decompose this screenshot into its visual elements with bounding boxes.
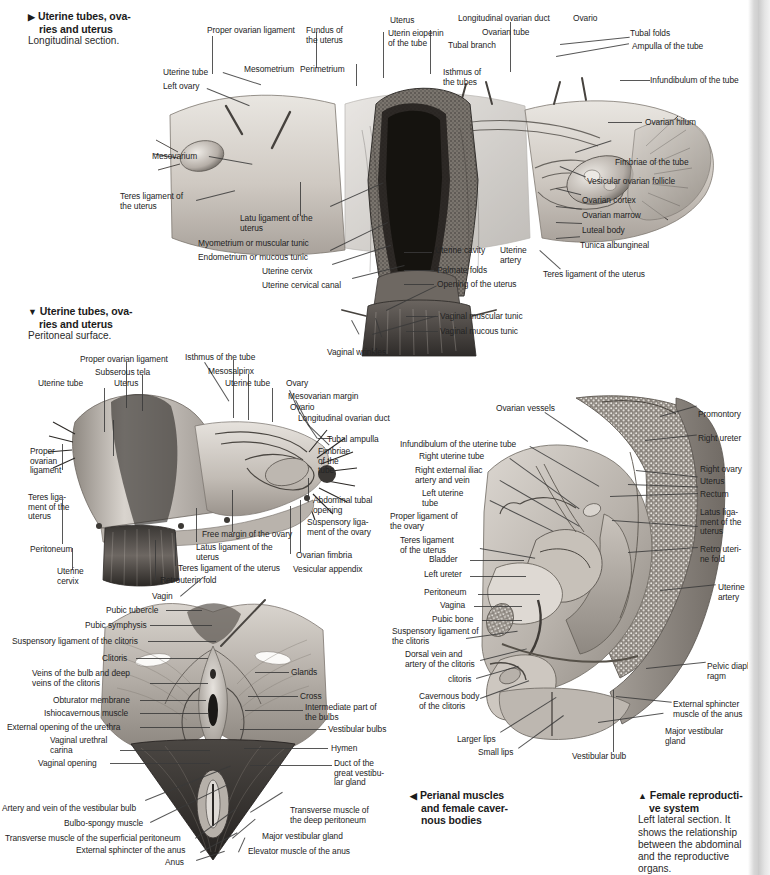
anatomy-label: Artery and vein of the vestibular bulb (2, 804, 136, 814)
anatomy-label: External sphincter muscle of the anus (673, 700, 742, 719)
anatomy-label: Subserous tela (95, 368, 150, 378)
anatomy-label: Uterine cervix (262, 267, 313, 277)
anatomy-label: External opening of the urethra (7, 723, 120, 733)
anatomy-label: Bulbo-spongy muscle (64, 819, 143, 829)
anatomy-label: Abdominal tubal opening (313, 496, 372, 515)
page-edge-shadow (748, 0, 758, 875)
anatomy-label: Pubic symphysis (85, 621, 147, 631)
anatomy-label: Uterine cervix (57, 567, 84, 586)
leader-line (175, 532, 176, 566)
figure-1-caption: ▶Uterine tubes, ova- ries and uterus Lon… (28, 10, 178, 48)
anatomy-label: Mesosalpinx (208, 367, 254, 377)
anatomy-label: Hymen (331, 744, 357, 754)
anatomy-label: Vagin (152, 592, 173, 602)
anatomy-label: Uterin eiopenin of the tube (388, 29, 444, 48)
anatomy-label: Tubal folds (630, 29, 670, 39)
leader-line (608, 122, 642, 123)
anatomy-label: clitoris (448, 675, 471, 685)
anatomy-label: Tubal branch (448, 41, 496, 51)
anatomy-label: Vaginal muscular tunic (440, 312, 523, 322)
anatomy-label: Vaginal mucous tunic (440, 327, 518, 337)
anatomy-label: Vesicular appendix (293, 565, 362, 575)
anatomy-label: Ovarian vessels (496, 404, 555, 414)
leader-line (155, 540, 156, 580)
leader-line (255, 672, 289, 673)
anatomy-label: Uterus (390, 16, 414, 26)
figure-4-caption-title: ▲Female reproducti- ve system (638, 789, 760, 814)
anatomy-label: Pubic bone (432, 615, 473, 625)
leader-line (404, 270, 434, 271)
anatomy-label: Right uterine tube (419, 452, 484, 462)
anatomy-label: Rectum (700, 490, 729, 500)
leader-line (478, 594, 540, 595)
anatomy-label: Uterine tube (163, 68, 208, 78)
anatomy-label: Palmate folds (437, 266, 487, 276)
leader-line (244, 748, 328, 749)
anatomy-label: External sphincter of the anus (76, 846, 185, 856)
anatomy-label: Longitudinal ovarian duct (298, 414, 390, 424)
leader-line (248, 696, 298, 697)
leader-line (150, 683, 208, 684)
anatomy-label: Uterine artery (500, 246, 527, 265)
anatomy-label: Intermediate part of the bulbs (305, 703, 377, 722)
leader-line (383, 32, 384, 78)
anatomy-label: Infundibulum of the uterine tube (400, 440, 516, 450)
anatomy-label: Right external iliac artery and vein (415, 466, 482, 485)
anatomy-label: Suspensory ligament of the clitoris (392, 627, 478, 646)
anatomy-label: Major vestibular gland (262, 832, 343, 842)
anatomy-label: Anus (165, 858, 184, 868)
anatomy-label: Longitudinal ovarian duct (458, 14, 550, 24)
leader-line (212, 36, 213, 74)
anatomy-label: Peritoneum (424, 588, 466, 598)
anatomy-label: Latus liga- ment of the uterus (700, 508, 741, 537)
leader-line (613, 690, 614, 752)
anatomy-label: Teres ligament of the uterus (400, 536, 454, 555)
anatomy-label: Teres liga- ment of the uterus (28, 493, 69, 522)
anatomy-label: Suspensory ligament of the clitoris (12, 637, 138, 647)
anatomy-label: Ampulla of the tube (632, 42, 703, 52)
anatomy-label: Vestibular bulb (572, 752, 626, 762)
leader-line (136, 658, 208, 659)
leader-line (232, 490, 233, 532)
leader-line (300, 500, 301, 552)
anatomy-label: Suspensory liga- ment of the ovary (307, 518, 371, 537)
anatomy-label: Vaginal wrinkles (327, 348, 386, 358)
anatomy-label: Cavernous body of the clitoris (419, 692, 479, 711)
anatomy-label: Teres ligament of the uterus (120, 192, 183, 211)
anatomy-label: Latu ligament of the uterus (240, 214, 313, 233)
anatomy-label: Uterus (700, 477, 724, 487)
anatomy-label: Uterine tube (38, 379, 83, 389)
leader-line (474, 606, 522, 607)
leader-line (240, 729, 326, 730)
anatomy-label: Ovarian hilum (645, 118, 696, 128)
anatomy-label: Duct of the great vestibu- lar gland (334, 759, 384, 788)
figure-1-caption-subtitle: Longitudinal section. (28, 35, 178, 47)
anatomy-label: Perimetrium (300, 65, 345, 75)
anatomy-label: Ishiocavernous muscle (44, 709, 128, 719)
anatomy-label: Bladder (429, 555, 458, 565)
anatomy-label: Proper ligament of the ovary (390, 512, 458, 531)
anatomy-label: Teres ligament of the uterus (543, 270, 645, 280)
anatomy-label: Larger lips (457, 735, 496, 745)
triangle-up-icon: ▲ (638, 791, 647, 801)
anatomy-label: Uterus (114, 379, 138, 389)
leader-line (140, 727, 210, 728)
atlas-page: ▶Uterine tubes, ova- ries and uterus Lon… (0, 0, 770, 875)
anatomy-label: Left uterine tube (422, 489, 463, 508)
figure-2-caption: ▼Uterine tubes, ova- ries and uterus Per… (28, 305, 178, 343)
anatomy-label: Peritoneum (30, 545, 72, 555)
leader-line (166, 610, 202, 611)
leader-line (556, 43, 629, 57)
anatomy-label: Vagina (440, 601, 465, 611)
leader-line (470, 560, 524, 561)
leader-line (104, 388, 105, 432)
figure-4-illustration (480, 392, 730, 752)
leader-line (62, 444, 63, 470)
leader-line (140, 700, 206, 701)
anatomy-label: Proper ovarian ligament (80, 355, 168, 365)
leader-line (308, 478, 309, 500)
anatomy-label: Ovarian tube (482, 28, 529, 38)
leader-line (110, 763, 210, 764)
leader-line (196, 508, 197, 542)
anatomy-label: Major vestibular gland (665, 727, 723, 746)
